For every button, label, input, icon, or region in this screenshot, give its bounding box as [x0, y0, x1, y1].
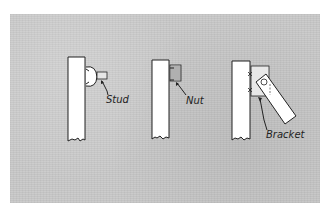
bracket-hole: [261, 79, 267, 85]
bracket-leader-arrow: [260, 99, 267, 130]
bracket-base-plate: [232, 61, 250, 140]
nut-base-plate: [152, 60, 169, 139]
nut-leader-arrow: [177, 83, 186, 95]
bracket-figure: Bracket: [232, 61, 306, 140]
stud-label: Stud: [106, 94, 130, 105]
bracket-label: Bracket: [266, 129, 306, 140]
nut-figure: Nut: [152, 60, 205, 139]
stud-figure: Stud: [68, 57, 130, 141]
weld-attachments-diagram: Stud Nut Bracket: [0, 0, 328, 211]
stud-shank: [97, 72, 107, 79]
nut-label: Nut: [186, 95, 205, 106]
stud-base-plate: [68, 57, 85, 141]
